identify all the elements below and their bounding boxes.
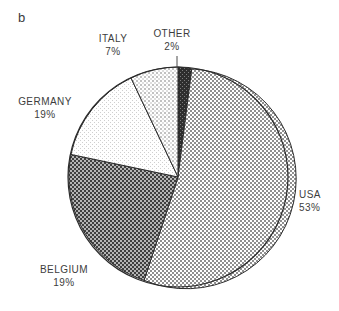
slice-label-belgium: BELGIUM 19% <box>28 264 100 289</box>
slice-label-germany: GERMANY 19% <box>8 96 82 121</box>
pie-chart-figure: b <box>0 0 339 311</box>
slice-label-usa: USA 53% <box>299 189 335 214</box>
slice-label-germany-value: 19% <box>8 109 82 122</box>
slice-label-italy-value: 7% <box>90 46 136 59</box>
slice-label-other-name: OTHER <box>153 28 190 39</box>
slice-label-belgium-value: 19% <box>28 277 100 290</box>
slice-label-belgium-name: BELGIUM <box>40 264 88 275</box>
slice-label-germany-name: GERMANY <box>18 96 72 107</box>
slice-label-italy: ITALY 7% <box>90 33 136 58</box>
slice-label-usa-value: 53% <box>299 202 335 215</box>
slice-label-italy-name: ITALY <box>99 33 128 44</box>
slice-label-other-value: 2% <box>148 41 196 54</box>
slice-label-other: OTHER 2% <box>148 28 196 53</box>
slice-label-usa-name: USA <box>299 189 321 200</box>
